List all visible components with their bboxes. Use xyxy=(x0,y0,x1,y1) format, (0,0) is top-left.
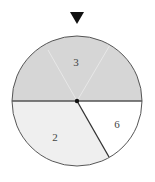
sector-label-bottom-right: 6 xyxy=(114,118,120,130)
spinner-diagram: 3 2 6 xyxy=(0,0,155,182)
pointer-arrow-icon xyxy=(70,12,84,24)
sector-label-bottom-left: 2 xyxy=(52,131,58,143)
center-dot xyxy=(75,99,79,103)
sector-label-top: 3 xyxy=(73,56,79,68)
sector-top xyxy=(12,36,142,101)
